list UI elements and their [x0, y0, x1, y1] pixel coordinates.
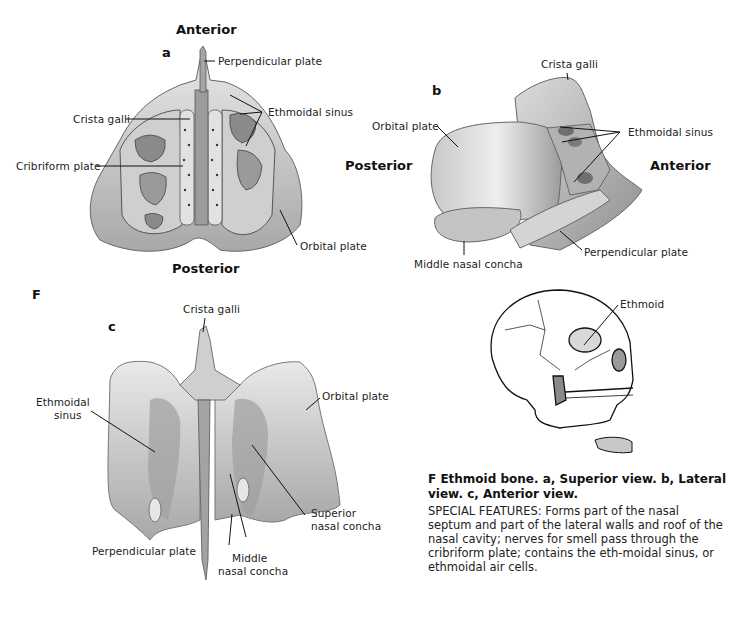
figure-caption: F Ethmoid bone. a, Superior view. b, Lat… — [428, 472, 728, 502]
panel-b-letter: b — [432, 83, 441, 98]
panel-c-label-perpendicular-plate: Perpendicular plate — [92, 545, 196, 557]
panel-b-orientation-anterior: Anterior — [650, 158, 711, 173]
figure-description: SPECIAL FEATURES: Forms part of the nasa… — [428, 504, 723, 574]
panel-b-label-crista-galli: Crista galli — [541, 58, 598, 70]
panel-c-label-crista-galli: Crista galli — [183, 303, 240, 315]
panel-a-orientation-anterior: Anterior — [176, 22, 237, 37]
skull-illustration — [491, 290, 633, 453]
panel-b-illustration — [431, 77, 642, 250]
panel-b-label-orbital-plate: Orbital plate — [372, 120, 439, 132]
panel-a-label-ethmoidal-sinus: Ethmoidal sinus — [268, 106, 353, 118]
panel-c-letter: c — [108, 319, 116, 334]
panel-a-illustration — [90, 46, 302, 251]
panel-a-orientation-posterior: Posterior — [172, 261, 239, 276]
figure-letter: F — [32, 287, 41, 302]
panel-a-letter: a — [162, 45, 171, 60]
panel-b-orientation-posterior: Posterior — [345, 158, 412, 173]
panel-b-label-ethmoidal-sinus: Ethmoidal sinus — [628, 126, 713, 138]
panel-a-label-cribriform-plate: Cribriform plate — [16, 160, 100, 172]
panel-c-label-orbital-plate: Orbital plate — [322, 390, 389, 402]
panel-b-label-perpendicular-plate: Perpendicular plate — [584, 246, 688, 258]
panel-c-label-superior-nasal-concha-line1: Superior — [311, 507, 356, 519]
skull-label-ethmoid: Ethmoid — [620, 298, 664, 310]
panel-c-label-middle-nasal-concha-line1: Middle — [232, 552, 267, 564]
panel-c-label-superior-nasal-concha-line2: nasal concha — [311, 520, 381, 532]
panel-c-illustration — [108, 326, 340, 580]
panel-a-label-orbital-plate: Orbital plate — [300, 240, 367, 252]
panel-b-label-middle-nasal-concha: Middle nasal concha — [414, 258, 523, 270]
panel-c-label-ethmoidal-sinus-line1: Ethmoidal — [36, 396, 90, 408]
panel-c-label-ethmoidal-sinus-line2: sinus — [54, 409, 82, 421]
panel-a-label-perpendicular-plate: Perpendicular plate — [218, 55, 322, 67]
panel-a-label-crista-galli: Crista galli — [73, 113, 130, 125]
panel-c-label-middle-nasal-concha-line2: nasal concha — [218, 565, 288, 577]
